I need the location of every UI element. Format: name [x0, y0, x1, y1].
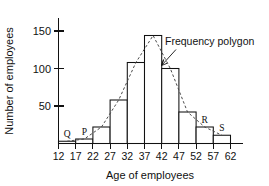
frequency-polygon-annotation-text: Frequency polygon: [165, 35, 254, 47]
x-tick-label-22: 22: [87, 150, 99, 162]
annotation-leader-line: [162, 50, 177, 66]
histogram-bar: [59, 141, 76, 143]
histogram-bar: [110, 100, 127, 144]
x-tick-label-12: 12: [53, 150, 65, 162]
point-label-q: Q: [64, 129, 71, 139]
x-tick-label-17: 17: [70, 150, 82, 162]
x-tick-label-47: 47: [173, 150, 185, 162]
x-tick-label-52: 52: [190, 150, 202, 162]
x-tick-label-37: 37: [139, 150, 151, 162]
histogram-bar: [145, 36, 162, 144]
histogram-chart: 50 100 150 12 17 22 27 32 37 42 47 52: [0, 0, 269, 186]
point-label-p: P: [82, 127, 87, 137]
point-label-s: S: [219, 123, 224, 133]
y-tick-label-150: 150: [33, 25, 51, 37]
x-axis-title: Age of employees: [106, 169, 195, 181]
x-tick-label-62: 62: [225, 150, 237, 162]
x-tick-label-32: 32: [121, 150, 133, 162]
y-tick-label-100: 100: [33, 63, 51, 75]
histogram-bar: [93, 127, 110, 144]
point-label-r: R: [202, 115, 209, 125]
x-axis-tick-labels: 12 17 22 27 32 37 42 47 52 57 62: [53, 150, 237, 162]
x-axis-ticks: [59, 144, 231, 150]
histogram-bar: [162, 69, 179, 144]
y-tick-label-50: 50: [39, 100, 51, 112]
x-tick-label-42: 42: [156, 150, 168, 162]
x-tick-label-27: 27: [104, 150, 116, 162]
x-tick-label-57: 57: [207, 150, 219, 162]
y-axis-title: Number of employees: [3, 27, 15, 135]
chart-canvas: 50 100 150 12 17 22 27 32 37 42 47 52: [0, 0, 269, 186]
histogram-bar: [213, 135, 230, 143]
